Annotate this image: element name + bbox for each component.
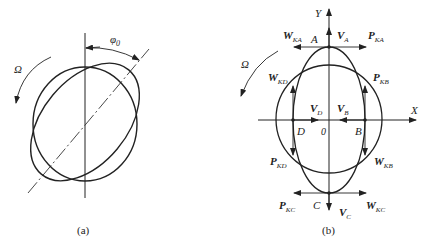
caption-a: (a) bbox=[77, 224, 90, 237]
angle-label: φ0 bbox=[110, 33, 120, 48]
vc-label: VC bbox=[339, 206, 351, 221]
angle-arc bbox=[86, 48, 139, 60]
vd-label: VD bbox=[310, 102, 322, 117]
va-label: VA bbox=[337, 29, 349, 44]
panel-b: Y X 0 A VA WKA PKA WKD PKB VD VB D B bbox=[241, 7, 419, 237]
y-axis-label: Y bbox=[315, 7, 323, 19]
pka-label: PKA bbox=[368, 29, 384, 44]
vb-label: VB bbox=[337, 102, 349, 117]
x-axis-label: X bbox=[410, 104, 419, 116]
pkd-label: PKD bbox=[270, 155, 286, 170]
point-d-label: D bbox=[296, 125, 305, 137]
pkc-label: PKC bbox=[279, 199, 295, 214]
rotation-label: Ω bbox=[14, 63, 22, 75]
caption-b: (b) bbox=[322, 224, 335, 237]
point-a-label: A bbox=[310, 33, 318, 45]
wkc-label: WKC bbox=[366, 199, 385, 214]
wka-label: WKA bbox=[283, 29, 302, 44]
rotation-label-b: Ω bbox=[241, 58, 249, 70]
panel-a: φ0 Ω (a) bbox=[9, 33, 161, 237]
origin-label: 0 bbox=[321, 126, 326, 137]
figure-canvas: φ0 Ω (a) Y X 0 A VA WKA PKA WKD PKB bbox=[0, 0, 427, 249]
tilted-axis-line bbox=[28, 49, 149, 193]
wkb-label: WKB bbox=[374, 155, 393, 170]
point-c-label: C bbox=[313, 199, 321, 211]
wkd-label: WKD bbox=[268, 71, 288, 86]
point-b-label: B bbox=[355, 125, 362, 137]
pkb-label: PKB bbox=[373, 71, 389, 86]
